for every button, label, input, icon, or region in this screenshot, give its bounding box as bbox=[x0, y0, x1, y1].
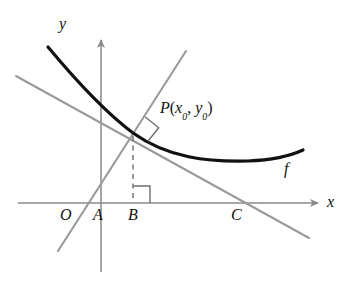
curve-label-f: f bbox=[284, 161, 288, 177]
p-x-subscript: 0 bbox=[182, 111, 187, 122]
point-label-c: C bbox=[231, 207, 242, 223]
x-axis-label: x bbox=[327, 194, 334, 210]
p-y-subscript: 0 bbox=[202, 111, 207, 122]
point-label-b: B bbox=[128, 207, 138, 223]
p-close-paren: ) bbox=[207, 99, 212, 116]
math-figure: y x O A B C f P(x0, y0) bbox=[0, 0, 347, 285]
point-label-a: A bbox=[93, 207, 103, 223]
right-angle-mark-at-b bbox=[133, 186, 150, 203]
origin-label-o: O bbox=[60, 207, 72, 223]
p-comma: , bbox=[187, 99, 191, 116]
y-axis-label: y bbox=[59, 16, 66, 32]
point-label-p-coordinates: P(x0, y0) bbox=[160, 100, 213, 119]
p-name: P bbox=[160, 99, 170, 116]
figure-canvas bbox=[0, 0, 347, 285]
